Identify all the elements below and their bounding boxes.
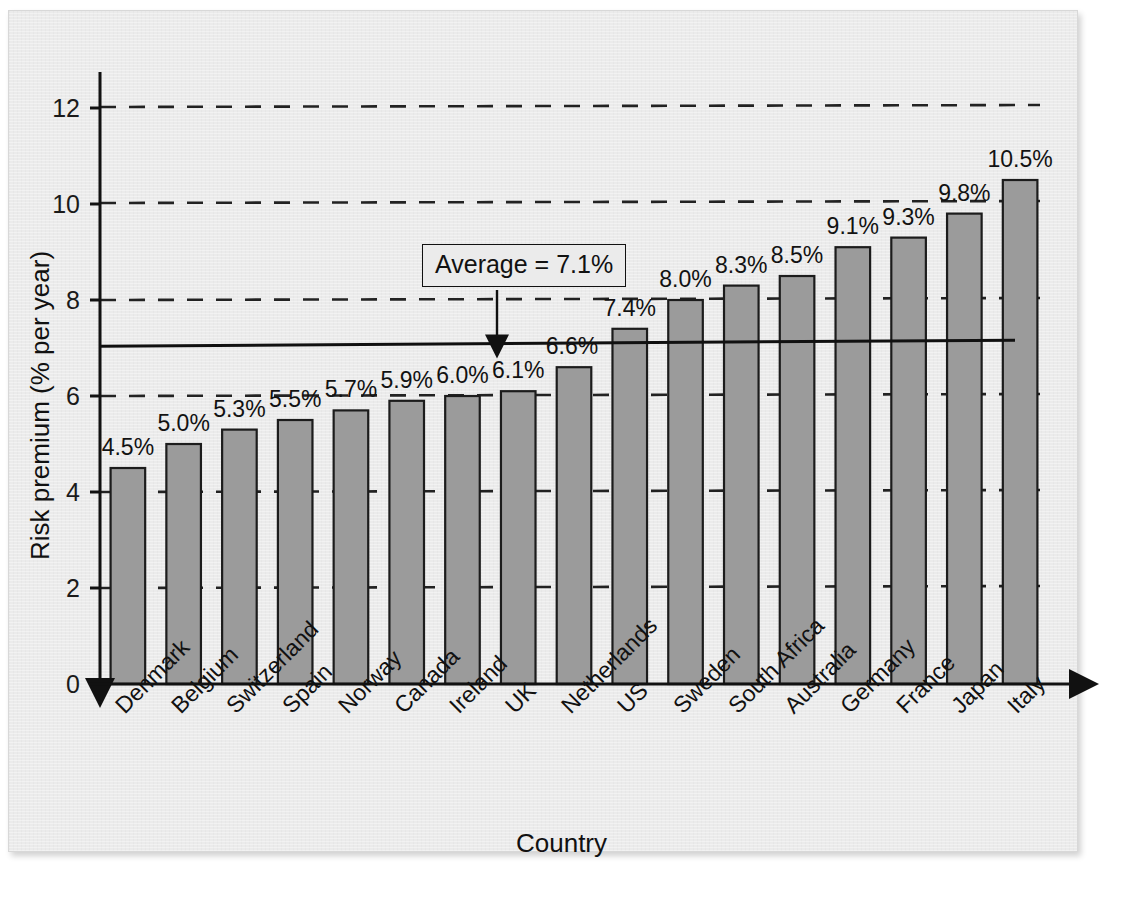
bar [891, 238, 926, 684]
bar [947, 214, 982, 684]
y-axis-title: Risk premium (% per year) [25, 226, 56, 586]
bar-value-label: 6.1% [492, 357, 544, 384]
chart-svg [0, 0, 1123, 898]
bar [445, 396, 480, 684]
bar-value-label: 9.8% [938, 180, 990, 207]
bar [111, 468, 146, 684]
y-axis-tick-label: 0 [30, 670, 80, 699]
bar-value-label: 8.5% [771, 242, 823, 269]
bar-value-label: 6.0% [436, 362, 488, 389]
bar-value-label: 9.1% [827, 213, 879, 240]
bar [557, 367, 592, 684]
bar [501, 391, 536, 684]
x-axis-title: Country [0, 828, 1123, 859]
bar-value-label: 5.0% [157, 410, 209, 437]
bar-value-label: 5.3% [213, 396, 265, 423]
bar-value-label: 4.5% [102, 434, 154, 461]
bar-value-label: 5.7% [325, 376, 377, 403]
gridline [100, 105, 1040, 107]
y-axis-tick-label: 10 [30, 190, 80, 219]
bar [389, 401, 424, 684]
average-annotation-box: Average = 7.1% [422, 244, 626, 287]
bar [836, 247, 871, 684]
bar-value-label: 8.3% [715, 252, 767, 279]
bar-value-label: 5.5% [269, 386, 321, 413]
bar [668, 300, 703, 684]
bar [724, 286, 759, 684]
bar-value-label: 9.3% [882, 204, 934, 231]
bar-value-label: 7.4% [604, 295, 656, 322]
bar-chart: 024681012 4.5%5.0%5.3%5.5%5.7%5.9%6.0%6.… [0, 0, 1123, 898]
bar [334, 410, 369, 684]
bar [1003, 180, 1038, 684]
bar-value-label: 5.9% [380, 367, 432, 394]
bar-value-label: 8.0% [659, 266, 711, 293]
bar-value-label: 6.6% [546, 333, 598, 360]
y-axis-tick-label: 12 [30, 94, 80, 123]
screenshot-page: 024681012 4.5%5.0%5.3%5.5%5.7%5.9%6.0%6.… [0, 0, 1123, 898]
bar-value-label: 10.5% [988, 146, 1053, 173]
